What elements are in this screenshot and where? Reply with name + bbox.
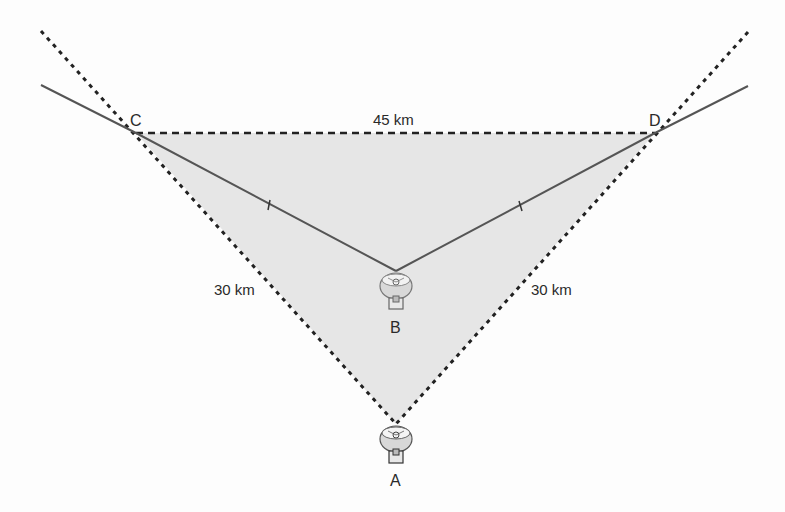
- diagram-canvas: [0, 0, 785, 512]
- point-label-b: B: [390, 320, 401, 336]
- point-label-a: A: [390, 473, 401, 489]
- length-label-ad: 30 km: [531, 282, 572, 297]
- satellite-dish-icon-a: [380, 426, 412, 463]
- point-label-c: C: [130, 113, 142, 129]
- length-label-cd: 45 km: [373, 112, 414, 127]
- point-label-d: D: [649, 113, 661, 129]
- length-label-ac: 30 km: [214, 282, 255, 297]
